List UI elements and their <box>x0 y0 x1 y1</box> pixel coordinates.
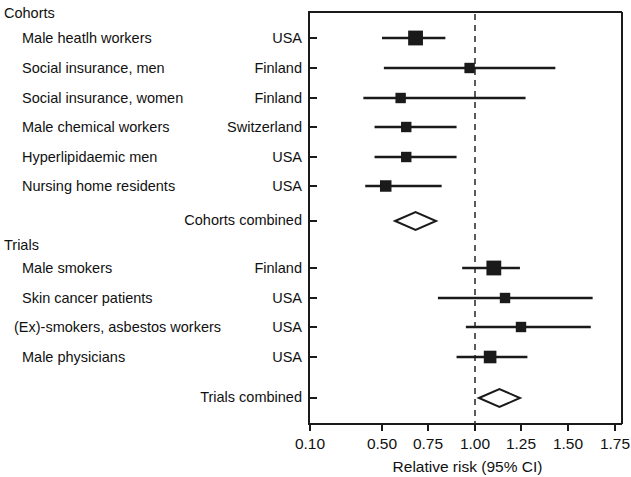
plot-area: 0.100.500.751.001.251.501.75Relative ris… <box>0 0 631 477</box>
axis-tick-label-6: 1.75 <box>600 435 630 452</box>
forest-row-cohorts-1 <box>384 63 555 73</box>
forest-row-trials-0 <box>462 261 520 276</box>
point-estimate-marker <box>484 351 497 364</box>
summary-diamond-cohorts <box>395 212 436 230</box>
forest-row-trials-2 <box>466 322 591 332</box>
point-estimate-marker <box>408 31 423 46</box>
axis-tick-label-0: 0.10 <box>295 435 326 452</box>
point-estimate-marker <box>380 180 392 192</box>
forest-row-cohorts-5 <box>365 180 441 192</box>
point-estimate-marker <box>464 63 474 73</box>
forest-row-cohorts-2 <box>363 93 525 103</box>
axis-tick-label-2: 0.75 <box>413 435 443 452</box>
point-estimate-marker <box>500 293 510 303</box>
forest-row-cohorts-0 <box>382 31 445 46</box>
plot-frame <box>309 12 622 424</box>
axis-tick-label-4: 1.25 <box>506 435 536 452</box>
axis-title: Relative risk (95% CI) <box>393 458 543 475</box>
forest-row-trials-3 <box>457 351 528 364</box>
point-estimate-marker <box>401 152 411 162</box>
forest-row-cohorts-3 <box>375 122 457 132</box>
forest-row-trials-1 <box>438 293 593 303</box>
point-estimate-marker <box>516 322 526 332</box>
point-estimate-marker <box>395 93 405 103</box>
axis-tick-label-1: 0.50 <box>367 435 398 452</box>
summary-diamond-trials <box>479 389 520 407</box>
axis-tick-label-5: 1.50 <box>553 435 584 452</box>
point-estimate-marker <box>401 122 411 132</box>
forest-plot-figure: Cohorts Male heatlh workers USA Social i… <box>0 0 631 477</box>
forest-row-cohorts-4 <box>375 152 457 162</box>
axis-tick-label-3: 1.00 <box>460 435 491 452</box>
point-estimate-marker <box>486 261 501 276</box>
